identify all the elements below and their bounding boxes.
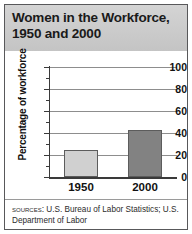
chart-footer: SOURCES: U.S. Bureau of Labor Statistics… (5, 199, 187, 230)
bar-1950 (64, 150, 98, 177)
bar-2000 (128, 130, 162, 177)
y-axis-label: Percentage of workforce (17, 45, 28, 165)
y-tick-label: 100 (151, 61, 187, 73)
x-tick-label: 2000 (122, 181, 168, 193)
page-title: Women in the Workforce, 1950 and 2000 (12, 10, 184, 41)
chart-plot-area: Percentage of workforce 020406080100 195… (5, 51, 187, 199)
chart-figure: Women in the Workforce, 1950 and 2000 Pe… (4, 4, 188, 230)
sources-label: SOURCES: (12, 204, 44, 214)
y-axis-line (49, 66, 50, 178)
sources-note: SOURCES: U.S. Bureau of Labor Statistics… (12, 204, 182, 226)
chart-header: Women in the Workforce, 1950 and 2000 (5, 5, 187, 51)
x-tick-label: 1950 (58, 181, 104, 193)
y-tick-label: 60 (151, 105, 187, 117)
x-axis-line (49, 177, 177, 179)
y-tick-label: 80 (151, 83, 187, 95)
